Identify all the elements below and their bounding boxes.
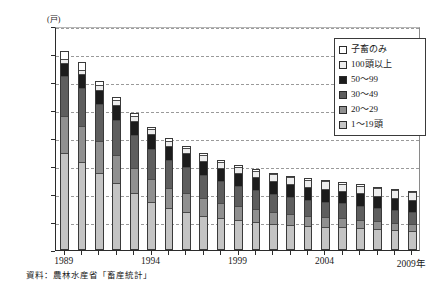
x-axis-tick-mark	[81, 251, 82, 255]
y-axis-tick-mark	[51, 55, 55, 56]
stacked-bar[interactable]	[182, 146, 191, 250]
stacked-bar[interactable]	[356, 184, 365, 250]
legend-label: 子畜のみ	[351, 45, 387, 54]
bar-segment	[131, 169, 138, 195]
bar-segment	[322, 190, 329, 203]
stacked-bar[interactable]	[286, 176, 295, 250]
y-axis-tick-mark	[51, 195, 55, 196]
stacked-bar[interactable]	[252, 169, 261, 250]
x-axis-tick-label: 1994	[141, 256, 160, 266]
bar-segment	[235, 174, 242, 187]
x-axis-tick-label: 1989	[54, 256, 73, 266]
bar-segment	[235, 187, 242, 207]
legend-item[interactable]: 子畜のみ	[339, 42, 421, 57]
x-axis-tick-mark	[98, 251, 99, 255]
bar-segment	[79, 89, 86, 128]
bar-segment	[61, 64, 68, 77]
bar-segment	[409, 232, 416, 249]
bar-segment	[113, 121, 120, 156]
bar-segment	[79, 163, 86, 249]
x-axis-tick-mark	[133, 251, 134, 255]
x-axis-tick-mark	[203, 251, 204, 255]
bar-segment	[148, 135, 155, 150]
bar-group	[304, 26, 313, 250]
bar-segment	[409, 193, 416, 201]
stacked-bar[interactable]	[165, 138, 174, 250]
bar-segment	[374, 189, 381, 197]
legend-item[interactable]: 100頭以上	[339, 57, 421, 72]
x-axis-tick-label: 2004	[315, 256, 334, 266]
bar-segment	[183, 194, 190, 213]
stacked-bar[interactable]	[78, 62, 87, 250]
bar-segment	[392, 224, 399, 231]
x-axis-tick-mark	[116, 251, 117, 255]
legend-label: 50〜99	[351, 75, 378, 84]
bar-segment	[409, 225, 416, 232]
legend-label: 100頭以上	[351, 60, 392, 69]
bar-segment	[96, 174, 103, 249]
bar-segment	[253, 210, 260, 223]
bar-segment	[166, 147, 173, 162]
x-axis-tick-mark	[255, 251, 256, 255]
bar-group	[165, 26, 174, 250]
stacked-bar[interactable]	[391, 189, 400, 250]
stacked-bar[interactable]	[304, 178, 313, 250]
stacked-bar[interactable]	[130, 113, 139, 250]
legend-swatch-icon	[339, 46, 347, 54]
bar-segment	[270, 182, 277, 195]
stacked-bar[interactable]	[373, 187, 382, 250]
bar-segment	[357, 194, 364, 206]
bar-segment	[113, 184, 120, 249]
stacked-bar[interactable]	[95, 81, 104, 250]
bar-group	[252, 26, 261, 250]
bar-segment	[218, 204, 225, 220]
x-axis-tick-mark	[238, 251, 239, 255]
bar-segment	[166, 161, 173, 189]
x-axis-tick-mark	[394, 251, 395, 255]
stacked-bar[interactable]	[269, 173, 278, 250]
legend-swatch-icon	[339, 76, 347, 84]
bar-segment	[357, 207, 364, 221]
legend-item[interactable]: 30〜49	[339, 87, 421, 102]
bar-segment	[374, 197, 381, 209]
legend-item[interactable]: 20〜29	[339, 102, 421, 117]
bar-segment	[218, 169, 225, 183]
stacked-bar[interactable]	[217, 160, 226, 250]
stacked-bar[interactable]	[147, 127, 156, 250]
bar-segment	[374, 209, 381, 223]
stacked-bar[interactable]	[321, 180, 330, 250]
bar-segment	[131, 136, 138, 168]
bar-segment	[339, 192, 346, 204]
bar-group	[182, 26, 191, 250]
x-axis-tick-mark	[307, 251, 308, 255]
bar-segment	[357, 187, 364, 195]
stacked-bar[interactable]	[60, 51, 69, 250]
bar-segment	[148, 180, 155, 203]
y-axis-tick-mark	[51, 111, 55, 112]
bar-segment	[253, 178, 260, 191]
stacked-bar[interactable]	[112, 97, 121, 250]
bar-segment	[148, 203, 155, 249]
bar-segment	[166, 209, 173, 249]
bar-segment	[131, 122, 138, 137]
bar-segment	[79, 75, 86, 89]
x-axis-tick-mark	[342, 251, 343, 255]
y-axis-unit-label: (戸)	[47, 13, 60, 24]
legend-swatch-icon	[339, 106, 347, 114]
x-axis-tick-label: 1999	[228, 256, 247, 266]
bar-segment	[96, 91, 103, 106]
bar-segment	[79, 127, 86, 162]
bar-segment	[131, 194, 138, 249]
stacked-bar[interactable]	[234, 165, 243, 250]
bar-segment	[287, 185, 294, 198]
stacked-bar[interactable]	[199, 153, 208, 250]
y-axis-tick-mark	[51, 167, 55, 168]
stacked-bar[interactable]	[338, 182, 347, 250]
legend-item[interactable]: 1〜19頭	[339, 117, 421, 132]
x-axis-tick-mark	[324, 251, 325, 255]
stacked-bar[interactable]	[408, 191, 417, 250]
legend-item[interactable]: 50〜99	[339, 72, 421, 87]
bar-segment	[409, 213, 416, 226]
bar-segment	[339, 228, 346, 249]
bar-segment	[392, 211, 399, 224]
